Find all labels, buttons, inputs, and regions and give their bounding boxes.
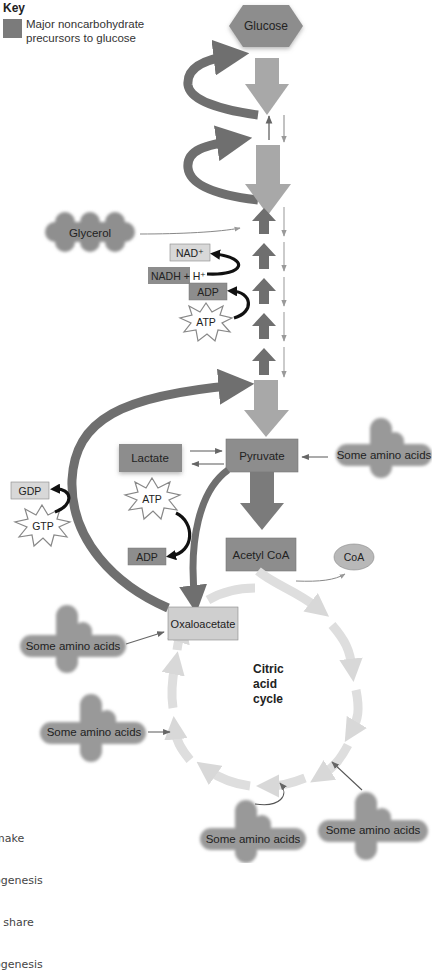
atp-mid-label: ATP (142, 493, 162, 505)
pyruvate-to-acetylcoa-arrow (240, 472, 284, 530)
pyruvate-label: Pyruvate (239, 450, 284, 462)
amino-acids-bottom-right-label: Some amino acids (326, 824, 421, 836)
adp-top-label: ADP (197, 286, 219, 298)
lactate-label: Lactate (131, 452, 169, 464)
nad-plus-label: NAD⁺ (176, 247, 204, 259)
amino-to-cycle-arrow-right (332, 762, 362, 790)
amino-acids-right-node: Some amino acids (336, 418, 432, 478)
gdp-label: GDP (19, 485, 42, 497)
glycerol-node: Glycerol (45, 212, 135, 252)
caption-line-2: ogenesis (0, 874, 43, 888)
pyruvate-node: Pyruvate (226, 439, 298, 472)
caption-line-1: make (0, 832, 43, 846)
atp-top-label: ATP (196, 316, 216, 328)
atp-reaction-arrow-mid (171, 513, 190, 556)
citric-label-line1: Citric (253, 662, 284, 676)
citric-label-line3: cycle (253, 692, 283, 706)
glycolysis-arrow-2 (245, 145, 291, 215)
amino-acids-bottom-center-label: Some amino acids (206, 833, 301, 845)
atp-mid-node: ATP (125, 478, 180, 519)
gtp-node: GTP (15, 505, 70, 546)
glycolysis-arrow-1 (245, 58, 289, 115)
amino-acids-bottom-right-node: Some amino acids (318, 792, 428, 860)
acetyl-coa-node: Acetyl CoA (226, 538, 296, 571)
glucose-label: Glucose (244, 19, 288, 33)
caption-line-4: ogenesis (0, 958, 43, 972)
acetyl-coa-label: Acetyl CoA (233, 549, 290, 561)
coa-label: CoA (344, 551, 364, 563)
nadh-node: NADH + H⁺ (148, 267, 206, 284)
nadh-label: NADH + H⁺ (151, 270, 206, 282)
glycerol-arrow (140, 228, 240, 234)
atp-top-node: ATP (180, 303, 232, 341)
amino-acids-left-lower-label: Some amino acids (47, 726, 142, 738)
glycerol-label: Glycerol (69, 227, 111, 239)
citric-label-line2: acid (253, 677, 277, 691)
pyruvate-to-oxaloacetate-arrow (193, 470, 228, 602)
caption-line-3: s share (0, 916, 43, 930)
citric-acid-cycle-label: Citric acid cycle (253, 662, 284, 706)
glucose-node: Glucose (229, 5, 303, 47)
gdp-node: GDP (11, 482, 49, 499)
adp-mid-label: ADP (136, 551, 158, 563)
amino-acids-left-upper-label: Some amino acids (26, 640, 121, 652)
adp-mid-node: ADP (128, 548, 166, 565)
amino-to-oxaloacetate-arrow (126, 632, 164, 644)
bypass-arrow-2 (188, 140, 258, 200)
amino-acids-right-label: Some amino acids (337, 449, 432, 461)
lactate-node: Lactate (119, 444, 182, 472)
amino-acids-bottom-center-node: Some amino acids (200, 800, 306, 863)
atp-reaction-arrow-top (232, 291, 248, 318)
oxaloacetate-node: Oxaloacetate (168, 607, 238, 640)
nad-plus-node: NAD⁺ (170, 244, 210, 261)
oxaloacetate-label: Oxaloacetate (171, 618, 236, 630)
glycolysis-arrow-3 (244, 380, 289, 437)
nad-reaction-arrow (207, 254, 239, 274)
coa-node: CoA (334, 544, 374, 570)
reversible-steps (252, 207, 284, 377)
coa-release-arrow (296, 574, 345, 581)
gtp-label: GTP (32, 520, 54, 532)
caption-fragment: make ogenesis s share ogenesis (0, 804, 43, 974)
gtp-reaction-arrow (55, 489, 69, 512)
amino-acids-left-upper-node: Some amino acids (20, 605, 126, 673)
adp-top-node: ADP (189, 283, 227, 300)
amino-acids-left-lower-node: Some amino acids (40, 694, 146, 762)
